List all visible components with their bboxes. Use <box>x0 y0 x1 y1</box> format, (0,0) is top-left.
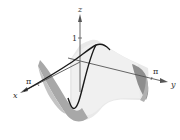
z-axis-label: z <box>77 5 83 14</box>
x-tick-label: π <box>26 77 31 86</box>
z-axis-arrow-icon <box>78 14 82 22</box>
surface-diagram: z 1 x π y π <box>0 0 180 140</box>
y-tick-label: π <box>153 67 158 76</box>
y-axis-label: y <box>170 80 176 89</box>
x-axis-label: x <box>13 91 18 100</box>
y-axis-arrow-icon <box>160 78 168 83</box>
z-tick-label: 1 <box>72 34 77 43</box>
y-tick <box>151 77 152 80</box>
